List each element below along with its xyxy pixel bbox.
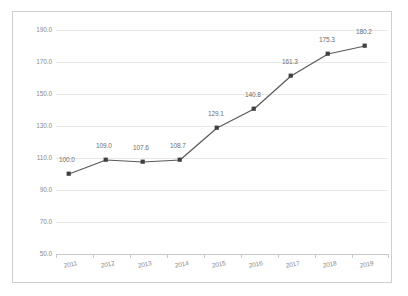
chart-outer-frame [12,11,392,283]
line-chart-figure: 190.0 170.0 150.0 130.0 110.0 90.0 70.0 … [0,0,408,296]
